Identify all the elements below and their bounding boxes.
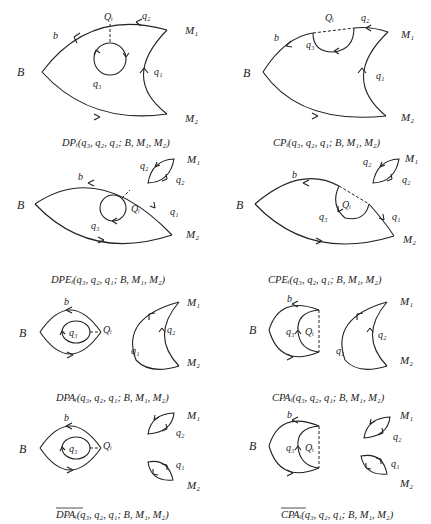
arrow-icon <box>376 458 381 464</box>
arrow-icon <box>154 415 159 420</box>
caption-dpe: DPEᵢ(q₃, q₂, q₁; B, M₁, M₂) <box>50 274 166 286</box>
label-B: B <box>17 198 25 212</box>
arrow-icon <box>287 470 293 476</box>
caption-dpa: DPAᵢ(q₃, q₂, q₁; B, M₁, M₂) <box>55 392 169 404</box>
label-B: B <box>19 326 27 340</box>
label-q1: q₁ <box>336 345 344 356</box>
label-Q: Qᵢ <box>104 11 113 22</box>
arrow-icon <box>312 113 318 119</box>
label-q3: q₃ <box>286 442 295 453</box>
label-M2: M₂ <box>399 477 413 489</box>
label-Q: Qᵢ <box>305 442 314 453</box>
label-q1: q₁ <box>176 459 184 470</box>
label-q3: q₃ <box>93 78 102 89</box>
label-q3: q₃ <box>306 39 315 50</box>
loop-q3 <box>100 195 126 221</box>
arrow-icon <box>88 180 94 186</box>
label-M2: M₂ <box>184 112 198 124</box>
label-q2a: q₂ <box>140 160 149 171</box>
label-M1: M₁ <box>186 296 200 308</box>
label-M1: M₁ <box>400 28 414 40</box>
label-q1: q₁ <box>154 66 162 77</box>
label-Q: Qᵢ <box>131 203 140 214</box>
label-Q: Qᵢ <box>342 199 351 210</box>
arrow-icon <box>292 417 298 423</box>
arrow-icon <box>67 352 73 358</box>
eye-q1 <box>361 455 387 474</box>
panel-cpa-bar: B b Qᵢ q₃ q₂ q₁ M₁ M₂ CPAᵢ(q₃, q₂, q₁; B… <box>249 409 413 521</box>
panel-cp: B b Qᵢ q₂ q₁ q₃ M₁ M₂ CPᵢ(q₃, q₂, q₁; B,… <box>243 12 414 149</box>
label-q1: q₁ <box>131 345 139 356</box>
label-M1: M₁ <box>404 152 418 164</box>
label-B: B <box>249 439 257 453</box>
arrow-icon <box>149 313 155 320</box>
diagram-canvas: B b Qᵢ q₂ q₁ q₃ M₁ M₂ DPᵢ(q₃, q₂, q₁; B,… <box>0 0 431 524</box>
label-q3: q₃ <box>69 443 78 454</box>
label-b: b <box>64 412 69 423</box>
panel-dpa: B b Qᵢ q₃ q₂ q₁ M₁ M₂ DPAᵢ(q₃, q₂, q₁; B… <box>19 296 200 404</box>
eye-q2 <box>148 159 174 183</box>
label-B: B <box>17 65 25 79</box>
label-M1: M₁ <box>399 295 413 307</box>
label-q3: q₃ <box>91 220 100 231</box>
caption-cpe: CPEᵢ(q₃, q₂, q₁; B, M₁, M₂) <box>268 274 382 286</box>
label-q2: q₂ <box>378 329 387 340</box>
label-b: b <box>292 169 297 180</box>
label-q1: q₁ <box>170 206 178 217</box>
boundary-bottom <box>35 204 172 244</box>
label-B: B <box>249 323 257 337</box>
label-q2: q₂ <box>167 324 176 335</box>
label-q1: q₁ <box>392 211 400 222</box>
label-q2: q₂ <box>361 12 370 23</box>
cut-dashed <box>313 28 354 33</box>
boundary-q1 <box>369 204 394 236</box>
label-M2: M₂ <box>186 479 200 491</box>
eye-q2 <box>364 417 390 438</box>
arrow-icon <box>370 419 375 424</box>
boundary-bottom <box>255 204 394 244</box>
boundary-top <box>255 179 339 204</box>
indent-q3 <box>313 28 354 52</box>
label-M2: M₂ <box>399 354 413 366</box>
label-M1: M₁ <box>186 409 200 421</box>
panel-cpa: B b Qᵢ q₃ q₂ q₁ M₁ M₂ CPAᵢ(q₃, q₂, q₁; B… <box>249 293 413 404</box>
label-B: B <box>236 198 244 212</box>
caption-cp: CPᵢ(q₃, q₂, q₁; B, M₁, M₂) <box>273 137 381 149</box>
label-M2: M₂ <box>400 111 414 123</box>
label-q2: q₂ <box>393 431 402 442</box>
label-M1: M₁ <box>186 153 200 165</box>
label-q3: q₃ <box>286 326 295 337</box>
arrow-icon <box>94 114 100 120</box>
loop-q3 <box>94 43 126 75</box>
panel-dp: B b Qᵢ q₂ q₁ q₃ M₁ M₂ DPᵢ(q₃, q₂, q₁; B,… <box>17 10 198 149</box>
label-B: B <box>243 66 251 80</box>
caption-dp: DPᵢ(q₃, q₂, q₁; B, M₁, M₂) <box>61 137 170 149</box>
caption-dpa-bar: DPAᵢ(q₃, q₂, q₁; B, M₁, M₂) <box>55 509 169 521</box>
label-q3: q₃ <box>69 327 78 338</box>
label-b: b <box>287 293 292 304</box>
label-b: b <box>287 409 292 420</box>
label-b: b <box>53 30 58 41</box>
label-B: B <box>19 442 27 456</box>
label-q2b: q₂ <box>176 174 185 185</box>
label-q2a: q₂ <box>363 156 372 167</box>
panel-dpa-bar: B b Qᵢ q₃ q₂ q₁ M₁ M₂ DPAᵢ(q₃, q₂, q₁; B… <box>19 409 200 521</box>
eye-q1 <box>148 461 173 480</box>
label-Q: Qᵢ <box>103 324 112 335</box>
arrow-icon <box>287 354 293 360</box>
label-b: b <box>274 32 279 43</box>
label-M2: M₂ <box>185 228 199 240</box>
boundary-top <box>35 188 172 235</box>
arrow-icon <box>150 202 155 208</box>
eye-q2 <box>373 159 399 183</box>
caption-cpa-bar: CPAᵢ(q₃, q₂, q₁; B, M₁, M₂) <box>281 509 394 521</box>
boundary-q2 <box>354 28 388 33</box>
label-q3: q₃ <box>319 211 328 222</box>
label-M2: M₂ <box>402 233 416 245</box>
indent-q3 <box>336 186 369 219</box>
label-q1: q₁ <box>391 458 399 469</box>
panel-dpe: B b Qᵢ q₂ q₂ q₁ q₃ M₁ M₂ DPEᵢ(q₃, q₂, q₁… <box>17 153 200 286</box>
panel-cpe: B b Qᵢ q₂ q₂ q₁ q₃ M₁ M₂ CPEᵢ(q₃, q₂, q₁… <box>236 152 418 286</box>
arrow-icon <box>357 313 363 320</box>
arrow-icon <box>366 463 371 469</box>
